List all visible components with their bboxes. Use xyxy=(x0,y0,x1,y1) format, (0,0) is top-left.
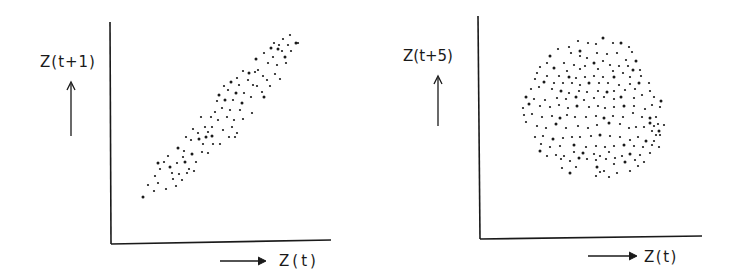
data-point xyxy=(623,144,626,147)
data-point xyxy=(585,116,587,118)
data-point xyxy=(171,172,173,174)
x-axis-line xyxy=(111,240,331,244)
data-point xyxy=(584,65,586,67)
data-point xyxy=(279,78,281,80)
data-point xyxy=(176,162,178,164)
data-point xyxy=(563,62,565,64)
data-point xyxy=(623,105,626,108)
data-point xyxy=(218,94,221,97)
data-point xyxy=(561,167,563,169)
data-point xyxy=(250,96,252,98)
data-point xyxy=(543,81,546,84)
data-point xyxy=(649,152,651,154)
data-point xyxy=(655,134,657,136)
data-point xyxy=(567,107,569,109)
data-point xyxy=(597,105,599,107)
data-point xyxy=(588,82,591,85)
data-point xyxy=(599,134,602,137)
data-point xyxy=(633,97,635,99)
data-point xyxy=(590,135,592,137)
data-point xyxy=(653,140,655,142)
x-axis-label: Z(t) xyxy=(279,252,319,270)
data-point xyxy=(599,171,601,173)
data-point xyxy=(628,127,630,129)
data-point xyxy=(643,126,645,128)
data-point xyxy=(579,136,581,138)
data-point xyxy=(595,159,597,161)
data-point xyxy=(198,138,201,141)
data-point xyxy=(277,48,280,51)
data-point xyxy=(553,82,555,84)
data-point xyxy=(528,103,531,106)
data-point xyxy=(525,96,528,99)
data-point xyxy=(224,99,227,102)
data-point xyxy=(648,82,650,84)
data-point xyxy=(641,94,643,96)
data-point xyxy=(637,165,639,167)
data-point xyxy=(629,170,631,172)
data-point xyxy=(593,153,595,155)
data-point xyxy=(531,113,533,115)
data-point xyxy=(147,184,149,186)
data-point xyxy=(641,116,643,118)
data-point xyxy=(575,166,577,168)
data-point xyxy=(658,130,661,133)
data-point xyxy=(184,161,187,164)
data-point xyxy=(272,56,274,58)
data-point xyxy=(586,57,588,59)
data-point xyxy=(569,172,572,175)
data-point xyxy=(281,50,283,52)
data-point xyxy=(183,150,185,152)
data-point xyxy=(613,98,615,100)
data-point xyxy=(192,128,194,130)
data-point xyxy=(165,188,167,190)
data-point xyxy=(566,114,568,116)
x-axis-label: Z(t) xyxy=(644,248,678,266)
data-point xyxy=(603,117,606,120)
data-point xyxy=(542,135,544,137)
data-point xyxy=(596,124,598,126)
x-axis-line xyxy=(480,236,702,239)
data-point xyxy=(618,65,620,67)
data-point xyxy=(227,89,229,91)
data-point xyxy=(625,59,627,61)
data-point xyxy=(172,178,174,180)
data-point xyxy=(602,76,604,78)
data-point xyxy=(598,82,600,84)
data-point xyxy=(632,112,634,114)
data-point xyxy=(637,136,639,138)
data-point xyxy=(252,84,254,86)
data-point xyxy=(653,125,655,127)
data-point xyxy=(634,159,636,161)
data-point xyxy=(631,51,633,53)
data-point xyxy=(523,114,525,116)
data-point xyxy=(588,106,590,108)
data-point xyxy=(551,88,553,90)
data-point xyxy=(242,70,244,72)
data-point xyxy=(551,115,553,117)
data-point xyxy=(539,66,541,68)
data-point xyxy=(587,42,589,44)
data-point xyxy=(154,175,156,177)
data-point xyxy=(633,145,635,147)
data-point xyxy=(579,50,582,53)
data-point xyxy=(614,157,616,159)
data-point xyxy=(645,140,648,143)
data-point xyxy=(188,168,190,170)
data-point xyxy=(620,42,623,45)
data-point xyxy=(573,64,575,66)
y-axis-label: Z(t+1) xyxy=(40,53,96,71)
data-point xyxy=(153,190,155,192)
data-point xyxy=(584,76,586,78)
data-point xyxy=(269,85,271,87)
data-point xyxy=(536,72,538,74)
data-point xyxy=(639,69,641,71)
data-point xyxy=(574,116,576,118)
data-point xyxy=(190,139,192,141)
data-point xyxy=(214,111,216,113)
data-point xyxy=(603,96,605,98)
data-point xyxy=(549,146,551,148)
data-point xyxy=(525,121,527,123)
data-point xyxy=(606,53,608,55)
data-point xyxy=(169,166,172,169)
